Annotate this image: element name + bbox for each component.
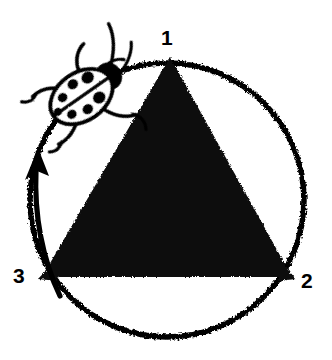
vertex-label-3: 3 <box>13 265 25 286</box>
diagram-svg <box>0 0 332 360</box>
vertex-label-2: 2 <box>301 270 313 291</box>
figure-canvas: 1 2 3 <box>0 0 332 360</box>
vertex-label-1: 1 <box>161 27 173 48</box>
